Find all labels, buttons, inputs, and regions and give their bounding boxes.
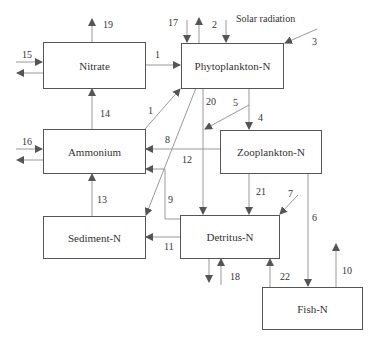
box-nitrate: Nitrate — [43, 42, 146, 89]
flow-label-13: 13 — [97, 195, 107, 205]
flow-label-16: 16 — [22, 137, 32, 147]
flow-label-21: 21 — [256, 187, 266, 197]
box-label: Phytoplankton-N — [195, 60, 271, 72]
flow-label-10: 10 — [342, 266, 352, 276]
arrow-9 — [146, 169, 180, 219]
box-label: Zooplankton-N — [237, 146, 305, 158]
box-label: Ammonium — [68, 146, 121, 158]
flow-label-14: 14 — [100, 109, 110, 119]
box-sediment: Sediment-N — [43, 216, 146, 259]
box-label: Sediment-N — [68, 232, 121, 244]
flow-label-19: 19 — [103, 20, 113, 30]
flow-label-1b: 1 — [148, 106, 153, 116]
box-zooplankton: Zooplankton-N — [220, 130, 322, 174]
flow-label-5: 5 — [233, 98, 238, 108]
flow-label-1a: 1 — [155, 50, 160, 60]
flow-label-9: 9 — [168, 195, 173, 205]
box-label: Detritus-N — [206, 231, 253, 243]
flow-label-3: 3 — [312, 37, 317, 47]
flow-label-15: 15 — [22, 50, 32, 60]
box-phytoplankton: Phytoplankton-N — [181, 43, 284, 89]
box-label: Fish-N — [297, 303, 328, 315]
box-detritus: Detritus-N — [180, 215, 280, 259]
box-label: Nitrate — [79, 60, 110, 72]
box-fish: Fish-N — [262, 287, 363, 330]
arrow-5 — [205, 105, 249, 129]
flow-label-7: 7 — [288, 189, 293, 199]
flow-label-2: 2 — [212, 20, 217, 30]
flow-label-17: 17 — [168, 18, 178, 28]
flow-label-20: 20 — [206, 97, 216, 107]
solar-radiation-label: Solar radiation — [236, 14, 295, 24]
flow-label-12: 12 — [182, 155, 192, 165]
flow-label-8: 8 — [165, 135, 170, 145]
flow-label-22: 22 — [280, 272, 290, 282]
flow-label-18: 18 — [230, 272, 240, 282]
flow-label-11: 11 — [164, 242, 174, 252]
flow-label-6: 6 — [312, 213, 317, 223]
flow-label-4: 4 — [258, 113, 263, 123]
box-ammonium: Ammonium — [43, 129, 146, 174]
